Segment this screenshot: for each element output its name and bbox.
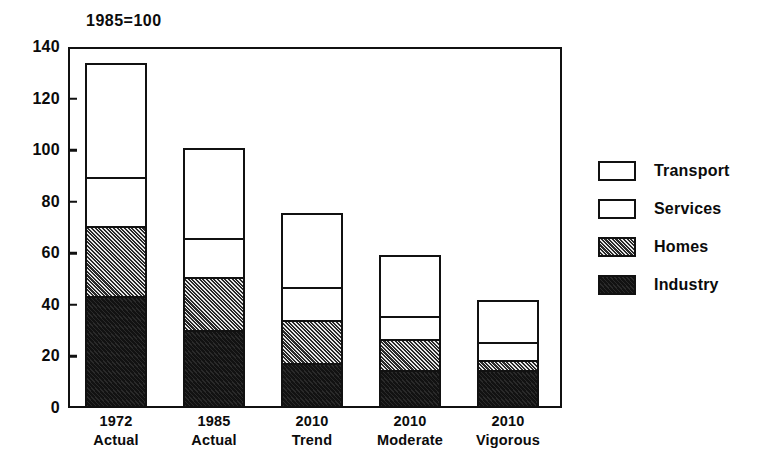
bar-segment-transport[interactable] xyxy=(477,300,539,343)
bar-segment-homes[interactable] xyxy=(379,339,441,372)
x-axis-label-3: 2010Trend xyxy=(257,412,367,450)
x-axis-label-scenario: Actual xyxy=(159,431,269,450)
bar-segment-transport[interactable] xyxy=(379,255,441,318)
bar-3[interactable] xyxy=(281,215,343,408)
y-tick-label: 100 xyxy=(2,141,60,159)
bar-segment-services[interactable] xyxy=(477,342,539,362)
legend-swatch-icon xyxy=(598,199,636,219)
bar-segment-services[interactable] xyxy=(379,316,441,341)
bar-1[interactable] xyxy=(85,65,147,408)
legend-item-homes[interactable]: Homes xyxy=(598,228,773,266)
bar-segment-transport[interactable] xyxy=(281,213,343,290)
bar-segment-industry[interactable] xyxy=(281,363,343,408)
bar-segment-industry[interactable] xyxy=(85,296,147,408)
x-axis-label-scenario: Trend xyxy=(257,431,367,450)
bar-segment-industry[interactable] xyxy=(379,370,441,408)
y-tick-label: 0 xyxy=(2,399,60,417)
legend-label: Services xyxy=(654,200,721,218)
legend-swatch-icon xyxy=(598,275,636,295)
x-axis-label-year: 2010 xyxy=(355,412,465,431)
bars-layer xyxy=(68,47,562,408)
bar-5[interactable] xyxy=(477,302,539,408)
y-tick-label: 40 xyxy=(2,296,60,314)
y-tick-mark xyxy=(68,97,77,100)
y-tick-mark xyxy=(68,149,77,152)
bar-segment-services[interactable] xyxy=(281,287,343,321)
bar-segment-homes[interactable] xyxy=(85,226,147,299)
legend-label: Industry xyxy=(654,276,719,294)
legend-item-industry[interactable]: Industry xyxy=(598,266,773,304)
x-axis-label-scenario: Vigorous xyxy=(453,431,563,450)
bar-segment-transport[interactable] xyxy=(183,148,245,240)
bar-segment-services[interactable] xyxy=(183,238,245,279)
x-axis-label-scenario: Actual xyxy=(61,431,171,450)
bar-4[interactable] xyxy=(379,257,441,408)
x-axis-label-year: 1972 xyxy=(61,412,171,431)
x-axis-label-1: 1972Actual xyxy=(61,412,171,450)
x-axis-labels: 1972Actual1985Actual2010Trend2010Moderat… xyxy=(68,412,562,468)
y-tick-mark xyxy=(68,252,77,255)
y-tick-label: 140 xyxy=(2,38,60,56)
bar-segment-industry[interactable] xyxy=(477,370,539,408)
bar-segment-homes[interactable] xyxy=(281,320,343,366)
bar-segment-transport[interactable] xyxy=(85,63,147,178)
stacked-bar-chart: 1985=100 020406080100120140 1972Actual19… xyxy=(0,0,777,475)
x-axis-label-5: 2010Vigorous xyxy=(453,412,563,450)
legend: TransportServicesHomesIndustry xyxy=(598,152,773,304)
x-axis-label-year: 1985 xyxy=(159,412,269,431)
legend-item-transport[interactable]: Transport xyxy=(598,152,773,190)
x-axis-label-4: 2010Moderate xyxy=(355,412,465,450)
y-tick-mark xyxy=(68,355,77,358)
bar-segment-homes[interactable] xyxy=(183,277,245,332)
x-axis-label-scenario: Moderate xyxy=(355,431,465,450)
bar-2[interactable] xyxy=(183,150,245,408)
legend-item-services[interactable]: Services xyxy=(598,190,773,228)
y-tick-label: 120 xyxy=(2,90,60,108)
y-tick-mark xyxy=(68,200,77,203)
y-tick-label: 60 xyxy=(2,244,60,262)
legend-label: Transport xyxy=(654,162,730,180)
y-axis: 020406080100120140 xyxy=(0,0,60,475)
x-axis-label-year: 2010 xyxy=(453,412,563,431)
y-tick-label: 20 xyxy=(2,347,60,365)
x-axis-label-year: 2010 xyxy=(257,412,367,431)
bar-segment-services[interactable] xyxy=(85,177,147,228)
y-tick-mark xyxy=(68,304,77,307)
legend-swatch-icon xyxy=(598,161,636,181)
legend-swatch-icon xyxy=(598,237,636,257)
bar-segment-industry[interactable] xyxy=(183,330,245,408)
legend-label: Homes xyxy=(654,238,708,256)
chart-title: 1985=100 xyxy=(86,12,162,30)
y-tick-label: 80 xyxy=(2,193,60,211)
x-axis-label-2: 1985Actual xyxy=(159,412,269,450)
